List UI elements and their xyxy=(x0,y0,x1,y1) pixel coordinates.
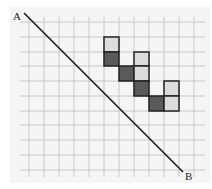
light-pixel-cell xyxy=(134,66,149,81)
label-b: B xyxy=(185,170,192,182)
light-pixel-cell xyxy=(134,52,149,66)
dark-pixel-cell xyxy=(104,52,119,66)
dark-pixel-cell xyxy=(134,81,149,96)
diagram-panel xyxy=(10,7,210,183)
light-pixel-cell xyxy=(164,81,179,96)
dark-pixel-cell xyxy=(149,96,164,111)
light-pixel-cell xyxy=(164,96,179,111)
light-pixel-cell xyxy=(104,37,119,52)
label-a: A xyxy=(13,10,21,22)
line-rasterization-diagram: A B xyxy=(0,0,212,189)
dark-pixel-cell xyxy=(119,66,134,81)
